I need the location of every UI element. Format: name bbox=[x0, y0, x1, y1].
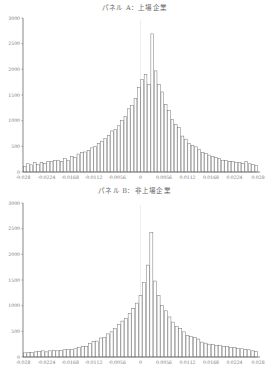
histogram-bar bbox=[114, 129, 117, 172]
histogram-bar bbox=[174, 125, 177, 172]
histogram-bar bbox=[124, 117, 127, 172]
histogram-bar bbox=[146, 265, 149, 357]
x-tick-label: -0.0168 bbox=[61, 360, 79, 365]
histogram-bar bbox=[135, 303, 138, 357]
y-tick-label: 500 bbox=[11, 144, 20, 149]
histogram-bar bbox=[139, 295, 142, 357]
histogram-bar bbox=[101, 141, 104, 172]
histogram-bar bbox=[57, 160, 60, 172]
histogram-bar bbox=[38, 351, 41, 357]
histogram-bar bbox=[37, 164, 40, 172]
histogram-bar bbox=[215, 158, 218, 172]
histogram-bar bbox=[78, 347, 81, 357]
histogram-bar bbox=[43, 163, 46, 172]
histogram-bar bbox=[63, 350, 66, 357]
y-tick-label: 500 bbox=[11, 329, 20, 334]
histogram-bar bbox=[106, 334, 109, 357]
histogram-bar bbox=[23, 166, 26, 172]
histogram-bar bbox=[114, 328, 117, 357]
histogram-bar bbox=[27, 164, 30, 172]
histogram-bar bbox=[137, 87, 140, 172]
histogram-bar bbox=[218, 159, 221, 172]
histogram-bar bbox=[23, 353, 26, 357]
histogram-bar bbox=[144, 74, 147, 172]
x-tick-label: 0.0056 bbox=[156, 360, 172, 365]
histogram-bar bbox=[190, 336, 193, 357]
histogram-bar bbox=[226, 347, 229, 357]
histogram-bar bbox=[255, 165, 258, 172]
histogram-bar bbox=[222, 346, 225, 357]
histogram-bar bbox=[179, 328, 182, 357]
histogram-bar bbox=[45, 352, 48, 357]
histogram-bar bbox=[211, 157, 214, 172]
histogram-bar bbox=[161, 306, 164, 357]
histogram-bar bbox=[52, 350, 55, 357]
histogram-bar bbox=[67, 160, 70, 172]
histogram-bar bbox=[87, 150, 90, 172]
y-tick-label: 0 bbox=[17, 355, 20, 360]
histogram-bar bbox=[74, 158, 77, 172]
histogram-bar bbox=[157, 295, 160, 357]
x-tick-label: 0 bbox=[139, 360, 142, 365]
histogram-bar bbox=[64, 159, 67, 172]
histogram-bar bbox=[154, 71, 157, 172]
histogram-bar bbox=[215, 346, 218, 357]
x-tick-label: -0.0112 bbox=[85, 175, 103, 180]
histogram-bar bbox=[70, 349, 73, 357]
histogram-bar bbox=[178, 127, 181, 172]
histogram-bar bbox=[208, 344, 211, 357]
y-tick-label: 1000 bbox=[8, 118, 20, 123]
histogram-bar bbox=[251, 351, 254, 357]
x-tick-label: -0.0056 bbox=[108, 360, 126, 365]
histogram-bar bbox=[132, 308, 135, 357]
histogram-bar bbox=[103, 337, 106, 357]
x-tick-label: -0.0224 bbox=[38, 175, 56, 180]
histogram-bar bbox=[56, 351, 59, 357]
histogram-bar bbox=[233, 347, 236, 357]
histogram-bar bbox=[85, 346, 88, 357]
histogram-bar bbox=[245, 162, 248, 172]
histogram-bar bbox=[128, 313, 131, 357]
histogram-bar bbox=[255, 351, 258, 357]
histogram-bar bbox=[77, 154, 80, 172]
x-tick-label: -0.0224 bbox=[38, 360, 56, 365]
histogram-bar bbox=[200, 342, 203, 357]
histogram-bar bbox=[121, 321, 124, 357]
histogram-bar bbox=[208, 155, 211, 172]
histogram-bar bbox=[143, 283, 146, 357]
histogram-bar bbox=[186, 335, 189, 357]
histogram-bar bbox=[252, 164, 255, 172]
x-tick-label: -0.0168 bbox=[61, 175, 79, 180]
histogram-bar bbox=[225, 161, 228, 172]
histogram-bar bbox=[204, 343, 207, 357]
histogram-bar bbox=[60, 162, 63, 172]
y-tick-label: 0 bbox=[17, 170, 20, 175]
histogram-bar bbox=[92, 342, 95, 357]
histogram-bar bbox=[96, 341, 99, 357]
x-tick-label: 0.0112 bbox=[179, 175, 195, 180]
histogram-bar bbox=[168, 110, 171, 172]
y-tick-label: 2500 bbox=[8, 41, 20, 46]
histogram-bar bbox=[171, 120, 174, 172]
x-tick-label: 0.0224 bbox=[226, 175, 242, 180]
histogram-bar bbox=[94, 146, 97, 172]
histogram-bar bbox=[30, 165, 33, 172]
histogram-bar bbox=[81, 347, 84, 357]
histogram-bar bbox=[219, 345, 222, 357]
x-tick-label: 0 bbox=[139, 175, 142, 180]
x-tick-label: 0.028 bbox=[251, 175, 264, 180]
x-tick-label: 0.0056 bbox=[156, 175, 172, 180]
histogram-bar bbox=[121, 121, 124, 172]
histogram-bar bbox=[104, 139, 107, 172]
histogram-bar bbox=[238, 163, 241, 172]
histogram-bar bbox=[172, 322, 175, 357]
y-tick-label: 2500 bbox=[8, 226, 20, 231]
histogram-bar bbox=[184, 139, 187, 172]
histogram-bar bbox=[125, 319, 128, 358]
histogram-bar bbox=[134, 99, 137, 172]
y-tick-label: 2000 bbox=[8, 252, 20, 257]
histogram-bar bbox=[193, 337, 196, 357]
histogram-bar bbox=[151, 34, 154, 172]
x-tick-label: -0.028 bbox=[16, 175, 31, 180]
histogram-bar bbox=[148, 85, 151, 172]
